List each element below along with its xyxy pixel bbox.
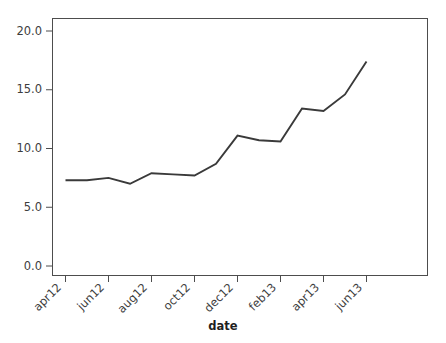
x-tick-label-2: aug12 — [115, 280, 151, 316]
x-tick-label-4: dec12 — [201, 280, 236, 315]
x-axis-labels: apr12 jun12 aug12 oct12 dec12 feb13 apr1… — [30, 280, 365, 316]
y-tick-label-1: 5.0 — [24, 200, 42, 214]
y-tick-label-3: 15.0 — [16, 82, 42, 96]
x-axis-ticks — [66, 276, 367, 283]
x-tick-label-7: jun13 — [332, 280, 366, 314]
y-tick-label-0: 0.0 — [24, 259, 42, 273]
plot-frame — [53, 19, 428, 276]
x-tick-label-5: feb13 — [246, 280, 279, 313]
x-tick-label-6: apr13 — [288, 280, 322, 314]
x-tick-label-3: oct12 — [160, 280, 193, 313]
line-chart: 0.0 5.0 10.0 15.0 20.0 apr12 jun12 aug12… — [0, 0, 446, 343]
data-series-line — [66, 62, 367, 184]
y-axis-labels: 0.0 5.0 10.0 15.0 20.0 — [16, 24, 42, 273]
chart-canvas: 0.0 5.0 10.0 15.0 20.0 apr12 jun12 aug12… — [0, 0, 446, 343]
x-tick-label-0: apr12 — [30, 280, 64, 314]
x-tick-label-1: jun12 — [74, 280, 108, 314]
y-tick-label-2: 10.0 — [16, 141, 42, 155]
y-axis-ticks — [46, 31, 53, 266]
y-tick-label-4: 20.0 — [16, 24, 42, 38]
x-axis-title: date — [208, 319, 237, 333]
